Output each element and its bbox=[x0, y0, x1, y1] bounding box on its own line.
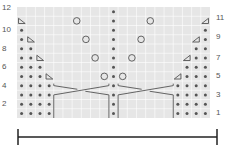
cable-cross-icon bbox=[85, 91, 109, 118]
yarn-over-icon bbox=[83, 36, 90, 43]
purl-dot-icon bbox=[186, 75, 189, 78]
knitting-chart bbox=[17, 7, 210, 118]
purl-dot-icon bbox=[186, 66, 189, 69]
purl-dot-icon bbox=[20, 93, 23, 96]
purl-dot-icon bbox=[204, 38, 207, 41]
cable-cross-icon bbox=[118, 84, 142, 90]
purl-dot-icon bbox=[195, 75, 198, 78]
purl-dot-icon bbox=[204, 103, 207, 106]
purl-dot-icon bbox=[195, 47, 198, 50]
purl-dot-icon bbox=[38, 84, 41, 87]
purl-dot-icon bbox=[204, 84, 207, 87]
purl-dot-icon bbox=[204, 66, 207, 69]
purl-dot-icon bbox=[20, 103, 23, 106]
purl-dot-icon bbox=[29, 93, 32, 96]
purl-dot-icon bbox=[195, 103, 198, 106]
purl-dot-icon bbox=[176, 93, 179, 96]
row-label-12: 12 bbox=[2, 4, 11, 12]
purl-dot-icon bbox=[20, 29, 23, 32]
purl-dot-icon bbox=[29, 112, 32, 115]
yarn-over-icon bbox=[129, 55, 136, 62]
row-label-9: 9 bbox=[216, 33, 220, 41]
row-label-6: 6 bbox=[2, 63, 6, 71]
row-label-1: 1 bbox=[216, 109, 220, 117]
purl-dot-icon bbox=[195, 66, 198, 69]
row-label-4: 4 bbox=[2, 82, 6, 90]
purl-dot-icon bbox=[20, 84, 23, 87]
purl-dot-icon bbox=[112, 103, 115, 106]
yarn-over-icon bbox=[119, 73, 126, 80]
purl-dot-icon bbox=[112, 19, 115, 22]
purl-dot-icon bbox=[204, 47, 207, 50]
purl-dot-icon bbox=[112, 47, 115, 50]
purl-dot-icon bbox=[29, 56, 32, 59]
purl-dot-icon bbox=[112, 10, 115, 13]
purl-dot-icon bbox=[186, 112, 189, 115]
purl-dot-icon bbox=[112, 75, 115, 78]
purl-dot-icon bbox=[48, 112, 51, 115]
purl-dot-icon bbox=[176, 112, 179, 115]
purl-dot-icon bbox=[48, 103, 51, 106]
purl-dot-icon bbox=[38, 66, 41, 69]
purl-dot-icon bbox=[38, 112, 41, 115]
purl-dot-icon bbox=[195, 56, 198, 59]
purl-dot-icon bbox=[20, 47, 23, 50]
purl-dot-icon bbox=[176, 84, 179, 87]
yarn-over-icon bbox=[147, 18, 154, 25]
purl-dot-icon bbox=[29, 103, 32, 106]
purl-dot-icon bbox=[29, 84, 32, 87]
purl-dot-icon bbox=[29, 66, 32, 69]
purl-dot-icon bbox=[204, 56, 207, 59]
purl-dot-icon bbox=[112, 38, 115, 41]
scale-bar bbox=[17, 128, 218, 146]
row-label-10: 10 bbox=[2, 26, 11, 34]
yarn-over-icon bbox=[138, 36, 145, 43]
decrease-right-icon bbox=[174, 74, 181, 79]
row-label-7: 7 bbox=[216, 54, 220, 62]
purl-dot-icon bbox=[20, 112, 23, 115]
purl-dot-icon bbox=[204, 29, 207, 32]
decrease-left-icon bbox=[28, 37, 35, 42]
purl-dot-icon bbox=[195, 93, 198, 96]
purl-dot-icon bbox=[186, 84, 189, 87]
purl-dot-icon bbox=[38, 75, 41, 78]
yarn-over-icon bbox=[92, 55, 99, 62]
purl-dot-icon bbox=[48, 84, 51, 87]
purl-dot-icon bbox=[204, 75, 207, 78]
cable-cross-icon bbox=[54, 84, 78, 90]
purl-dot-icon bbox=[20, 56, 23, 59]
row-label-2: 2 bbox=[2, 100, 6, 108]
purl-dot-icon bbox=[29, 75, 32, 78]
purl-dot-icon bbox=[112, 112, 115, 115]
cable-cross-icon bbox=[150, 91, 174, 118]
decrease-left-icon bbox=[37, 55, 44, 60]
purl-dot-icon bbox=[38, 93, 41, 96]
purl-dot-icon bbox=[20, 75, 23, 78]
purl-dot-icon bbox=[20, 38, 23, 41]
purl-dot-icon bbox=[112, 84, 115, 87]
row-label-3: 3 bbox=[216, 91, 220, 99]
decrease-left-icon bbox=[19, 18, 26, 23]
purl-dot-icon bbox=[204, 93, 207, 96]
row-label-11: 11 bbox=[216, 14, 224, 22]
purl-dot-icon bbox=[204, 112, 207, 115]
purl-dot-icon bbox=[48, 93, 51, 96]
decrease-right-icon bbox=[202, 18, 209, 23]
row-label-5: 5 bbox=[216, 72, 220, 80]
purl-dot-icon bbox=[38, 103, 41, 106]
decrease-right-icon bbox=[183, 55, 190, 60]
decrease-left-icon bbox=[46, 74, 53, 79]
purl-dot-icon bbox=[112, 93, 115, 96]
purl-dot-icon bbox=[186, 93, 189, 96]
purl-dot-icon bbox=[176, 103, 179, 106]
purl-dot-icon bbox=[195, 112, 198, 115]
purl-dot-icon bbox=[112, 56, 115, 59]
yarn-over-icon bbox=[73, 18, 80, 25]
purl-dot-icon bbox=[112, 66, 115, 69]
purl-dot-icon bbox=[195, 84, 198, 87]
purl-dot-icon bbox=[20, 66, 23, 69]
purl-dot-icon bbox=[112, 29, 115, 32]
yarn-over-icon bbox=[101, 73, 108, 80]
decrease-right-icon bbox=[193, 37, 200, 42]
purl-dot-icon bbox=[29, 47, 32, 50]
